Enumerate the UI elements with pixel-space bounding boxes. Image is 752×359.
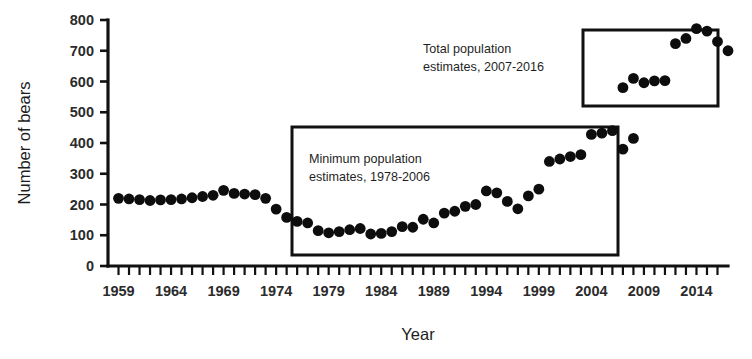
total-population-annotation-line1: Total population <box>423 42 511 56</box>
data-point <box>155 194 166 205</box>
y-tick-label: 100 <box>70 227 94 243</box>
data-point <box>113 193 124 204</box>
data-point <box>176 194 187 205</box>
x-tick-label: 2004 <box>575 283 607 299</box>
x-tick-label: 2009 <box>628 283 660 299</box>
data-point <box>712 36 723 47</box>
data-point <box>523 190 534 201</box>
minimum-population-annotation-line1: Minimum population <box>309 152 422 166</box>
y-tick-label: 800 <box>70 12 94 28</box>
data-point <box>344 224 355 235</box>
data-point <box>681 33 692 44</box>
data-point <box>533 184 544 195</box>
data-point <box>166 194 177 205</box>
x-tick-label: 2014 <box>680 283 712 299</box>
x-tick-label: 1964 <box>155 283 187 299</box>
data-point <box>628 133 639 144</box>
data-point <box>449 206 460 217</box>
data-point <box>428 218 439 229</box>
total-population-annotation-line2: estimates, 2007-2016 <box>423 60 544 74</box>
data-point <box>145 195 156 206</box>
data-point <box>397 221 408 232</box>
data-point <box>197 191 208 202</box>
x-tick-label: 1979 <box>313 283 345 299</box>
x-tick-label: 1999 <box>523 283 555 299</box>
data-point <box>313 225 324 236</box>
data-point <box>355 223 366 234</box>
data-point <box>639 77 650 88</box>
data-point <box>596 128 607 139</box>
data-point <box>544 156 555 167</box>
data-point <box>691 23 702 34</box>
data-point <box>187 192 198 203</box>
x-tick-label: 1989 <box>418 283 450 299</box>
data-point <box>586 129 597 140</box>
x-tick-label: 1969 <box>207 283 239 299</box>
y-axis-tick-labels: 0100200300400500600700800 <box>70 12 94 274</box>
bear-population-chart: Number of bears 010020030040050060070080… <box>0 0 752 359</box>
data-point <box>239 189 250 200</box>
data-point <box>386 226 397 237</box>
minimum-population-annotation-line2: estimates, 1978-2006 <box>309 170 430 184</box>
data-point <box>418 214 429 225</box>
data-point <box>250 189 261 200</box>
data-point <box>470 199 481 210</box>
y-tick-label: 200 <box>70 197 94 213</box>
data-point <box>660 75 671 86</box>
data-point <box>208 190 219 201</box>
data-point <box>334 226 345 237</box>
data-point <box>491 187 502 198</box>
data-point <box>670 38 681 49</box>
data-point <box>407 222 418 233</box>
series-total-population-estimates <box>618 23 734 93</box>
data-point <box>365 229 376 240</box>
data-point <box>302 218 313 229</box>
data-point <box>512 203 523 214</box>
y-tick-label: 300 <box>70 166 94 182</box>
data-point <box>323 227 334 238</box>
data-point <box>134 194 145 205</box>
series-early-estimates <box>113 185 313 228</box>
data-point <box>124 194 135 205</box>
data-point <box>618 144 629 155</box>
data-point <box>271 204 282 215</box>
y-tick-label: 0 <box>86 258 94 274</box>
data-point <box>628 73 639 84</box>
x-tick-label: 1994 <box>470 283 502 299</box>
data-point <box>607 125 618 136</box>
x-axis-tick-labels: 1959196419691974197919841989199419992004… <box>102 283 712 299</box>
data-point <box>281 212 292 223</box>
data-point <box>260 193 271 204</box>
data-point <box>502 196 513 207</box>
data-point <box>575 149 586 160</box>
y-tick-label: 400 <box>70 135 94 151</box>
data-point <box>218 185 229 196</box>
data-point <box>723 45 734 56</box>
data-point <box>702 26 713 37</box>
x-tick-label: 1959 <box>102 283 134 299</box>
x-axis-title: Year <box>401 325 435 343</box>
y-tick-label: 600 <box>70 74 94 90</box>
data-point <box>376 228 387 239</box>
data-point <box>554 154 565 165</box>
data-point <box>618 82 629 93</box>
x-tick-label: 1984 <box>365 283 397 299</box>
data-point <box>229 188 240 199</box>
y-axis-title: Number of bears <box>15 82 33 205</box>
data-point <box>565 151 576 162</box>
data-point <box>460 201 471 212</box>
data-point <box>649 75 660 86</box>
total-population-box <box>583 30 718 106</box>
x-tick-label: 1974 <box>260 283 292 299</box>
chart-svg: Number of bears 010020030040050060070080… <box>0 0 752 359</box>
data-point <box>292 216 303 227</box>
y-tick-label: 500 <box>70 104 94 120</box>
data-point <box>439 208 450 219</box>
data-point <box>481 186 492 197</box>
y-tick-label: 700 <box>70 43 94 59</box>
